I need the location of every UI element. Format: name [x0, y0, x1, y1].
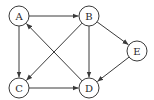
edges-group: [19, 16, 129, 88]
node-c: C: [9, 78, 29, 98]
node-label: C: [15, 83, 23, 94]
node-e: E: [127, 41, 147, 61]
node-a: A: [9, 6, 29, 26]
node-label: D: [85, 83, 93, 94]
directed-graph: ABECD: [0, 0, 154, 100]
node-d: D: [79, 78, 99, 98]
node-label: E: [133, 46, 140, 57]
node-label: B: [85, 11, 92, 22]
nodes-group: ABECD: [9, 6, 147, 98]
edge-e-to-d: [97, 57, 129, 81]
node-b: B: [79, 6, 99, 26]
node-label: A: [14, 11, 23, 22]
edge-b-to-e: [97, 22, 128, 45]
